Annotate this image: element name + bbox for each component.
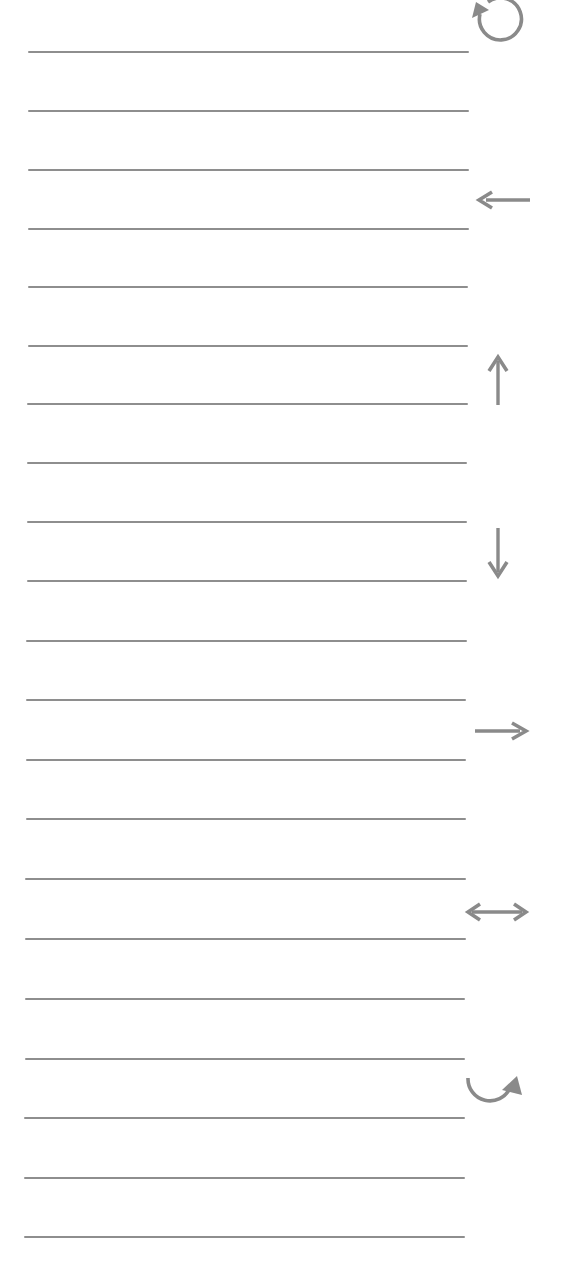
ruled-line: [26, 640, 467, 642]
ruled-line: [27, 521, 467, 523]
ruled-line: [27, 462, 467, 464]
ruled-line: [25, 998, 465, 1000]
ruled-line: [26, 759, 466, 761]
ruled-line: [27, 403, 468, 405]
ruled-line: [24, 1117, 465, 1119]
ruled-line: [28, 286, 468, 288]
ruled-line: [24, 1236, 465, 1238]
ruled-line: [25, 938, 466, 940]
curved-arrow-up-right-icon: [462, 1072, 528, 1112]
rotate-counterclockwise-icon: [466, 0, 530, 46]
ruled-line: [27, 580, 467, 582]
ruled-sheet: [0, 0, 573, 1265]
ruled-line: [28, 169, 469, 171]
ruled-line: [28, 228, 469, 230]
arrow-right-icon: [474, 719, 530, 743]
ruled-line: [24, 1177, 465, 1179]
arrow-left-right-icon: [466, 900, 528, 924]
ruled-line: [28, 345, 468, 347]
arrow-up-icon: [486, 353, 510, 407]
ruled-line: [28, 110, 469, 112]
ruled-line: [25, 1058, 465, 1060]
ruled-line: [26, 818, 466, 820]
ruled-line: [28, 51, 469, 53]
ruled-line: [26, 699, 466, 701]
ruled-line: [25, 878, 466, 880]
arrow-down-icon: [486, 526, 510, 580]
arrow-left-icon: [476, 188, 532, 212]
